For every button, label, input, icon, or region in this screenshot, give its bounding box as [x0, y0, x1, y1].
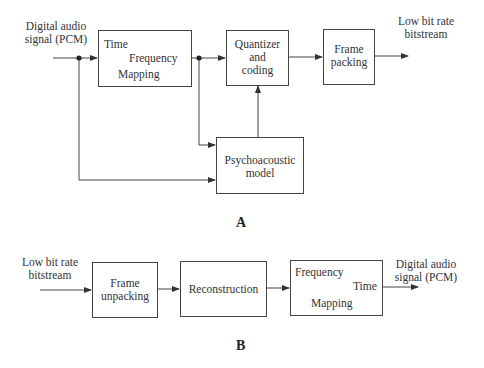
block-label-mapping: Mapping — [311, 297, 353, 310]
output-label-line: Digital audio — [386, 258, 466, 271]
block-label: Psychoacoustic model — [217, 154, 303, 180]
frequency-time-mapping-block: Frequency Time Mapping — [290, 260, 383, 316]
output-label-line: signal (PCM) — [386, 271, 466, 284]
reconstruction-block: Reconstruction — [180, 261, 267, 317]
input-label-a: Digital audio signal (PCM) — [20, 20, 92, 46]
output-label-a: Low bit rate bitstream — [390, 15, 462, 41]
input-label-b: Low bit rate bitstream — [14, 256, 86, 282]
block-label-frequency: Frequency — [129, 52, 178, 65]
caption-a: A — [236, 215, 246, 231]
junction-dot — [76, 55, 81, 60]
block-label-frequency: Frequency — [295, 266, 344, 279]
quantizer-coding-block: Quantizer and coding — [226, 30, 289, 86]
block-label-time: Time — [353, 280, 377, 293]
output-label-line: bitstream — [390, 28, 462, 41]
block-label-line: Quantizer — [227, 38, 288, 51]
input-label-line: Low bit rate — [14, 256, 86, 269]
output-label-b: Digital audio signal (PCM) — [386, 258, 466, 284]
block-label: Frame unpacking — [93, 277, 157, 303]
output-label-line: Low bit rate — [390, 15, 462, 28]
frame-packing-block: Frame packing — [323, 29, 375, 85]
block-label: Quantizer and coding — [227, 38, 288, 77]
frame-unpacking-block: Frame unpacking — [92, 262, 158, 318]
input-label-line: bitstream — [14, 269, 86, 282]
block-label-line: Frame — [93, 277, 157, 290]
block-label-time: Time — [104, 38, 128, 51]
input-label-line: signal (PCM) — [20, 33, 92, 46]
block-label: Frame packing — [324, 43, 374, 69]
caption-b: B — [236, 338, 245, 354]
block-label-mapping: Mapping — [118, 68, 160, 81]
block-label-line: coding — [227, 64, 288, 77]
block-label-line: model — [217, 167, 303, 180]
block-label-line: packing — [324, 56, 374, 69]
psychoacoustic-model-block: Psychoacoustic model — [216, 137, 304, 194]
input-label-line: Digital audio — [20, 20, 92, 33]
block-label-line: unpacking — [93, 290, 157, 303]
block-label-line: and — [227, 51, 288, 64]
junction-dot — [196, 55, 201, 60]
block-label-line: Frame — [324, 43, 374, 56]
time-frequency-mapping-block: Time Frequency Mapping — [98, 30, 192, 87]
block-label: Reconstruction — [181, 283, 266, 296]
block-label-line: Psychoacoustic — [217, 154, 303, 167]
